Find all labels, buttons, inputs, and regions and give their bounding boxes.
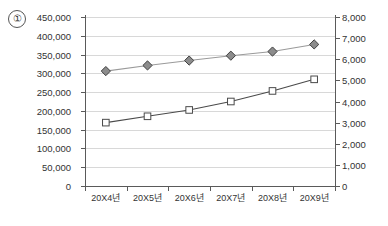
data-point-square xyxy=(186,107,193,114)
right-axis-tick xyxy=(336,165,340,166)
series-diamond xyxy=(101,40,319,76)
series-square xyxy=(103,76,318,126)
left-axis-tick xyxy=(81,148,85,149)
chart-container: ① 050,000100,000150,000200,000250,000300… xyxy=(0,0,388,226)
right-axis-tick xyxy=(336,186,340,187)
data-point-diamond xyxy=(101,66,110,75)
data-point-square xyxy=(144,113,151,120)
left-axis-tick xyxy=(81,111,85,112)
data-point-square xyxy=(311,76,318,83)
data-point-diamond xyxy=(185,56,194,65)
data-point-diamond xyxy=(268,47,277,56)
data-point-square xyxy=(228,98,235,105)
data-point-diamond xyxy=(143,61,152,70)
left-axis-tick xyxy=(81,55,85,56)
series-square-line xyxy=(106,79,314,122)
right-axis-tick xyxy=(336,102,340,103)
left-axis-tick xyxy=(81,186,85,187)
series-diamond-line xyxy=(106,44,314,71)
left-axis-tick xyxy=(81,92,85,93)
chart-series-layer xyxy=(0,0,388,226)
right-axis-tick xyxy=(336,17,340,18)
right-axis-tick xyxy=(336,80,340,81)
data-point-diamond xyxy=(226,51,235,60)
data-point-square xyxy=(269,88,276,95)
data-point-square xyxy=(103,119,110,126)
left-axis-tick xyxy=(81,167,85,168)
left-axis-tick xyxy=(81,130,85,131)
right-axis-tick xyxy=(336,38,340,39)
right-axis-tick xyxy=(336,144,340,145)
data-point-diamond xyxy=(310,40,319,49)
right-axis-tick xyxy=(336,123,340,124)
left-axis-tick xyxy=(81,36,85,37)
left-axis-tick xyxy=(81,73,85,74)
left-axis-tick xyxy=(81,17,85,18)
right-axis-tick xyxy=(336,59,340,60)
